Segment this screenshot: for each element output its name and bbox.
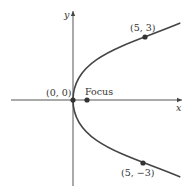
upper-point-label: (5, 3) bbox=[130, 22, 156, 33]
parabola-diagram: y x (0, 0) Focus (5, 3) (5, −3) bbox=[0, 0, 196, 193]
y-axis-label: y bbox=[63, 9, 70, 20]
focus-point bbox=[84, 97, 89, 102]
vertex-point bbox=[70, 97, 75, 102]
point-5-3 bbox=[142, 34, 147, 39]
focus-label: Focus bbox=[85, 86, 113, 97]
lower-point-label: (5, −3) bbox=[121, 167, 155, 178]
point-5-neg3 bbox=[140, 160, 145, 165]
vertex-label: (0, 0) bbox=[46, 87, 72, 98]
parabola-curve bbox=[73, 22, 183, 126]
x-axis-label: x bbox=[176, 102, 182, 113]
